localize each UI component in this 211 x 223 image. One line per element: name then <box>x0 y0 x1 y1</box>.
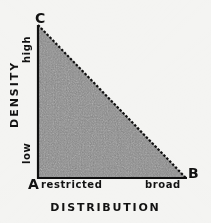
vertex-label-a: A <box>28 177 39 191</box>
figure-panel: C A B restricted broad high low DENSITY … <box>0 0 211 223</box>
y-tick-label-high: high <box>22 36 32 63</box>
x-axis-title: DISTRIBUTION <box>0 202 211 213</box>
y-tick-label-low: low <box>22 143 32 164</box>
x-tick-label-restricted: restricted <box>41 180 102 190</box>
x-tick-label-broad: broad <box>145 180 181 190</box>
vertex-label-c: C <box>35 11 45 25</box>
y-axis-title: DENSITY <box>9 61 20 128</box>
vertex-label-b: B <box>188 166 199 180</box>
